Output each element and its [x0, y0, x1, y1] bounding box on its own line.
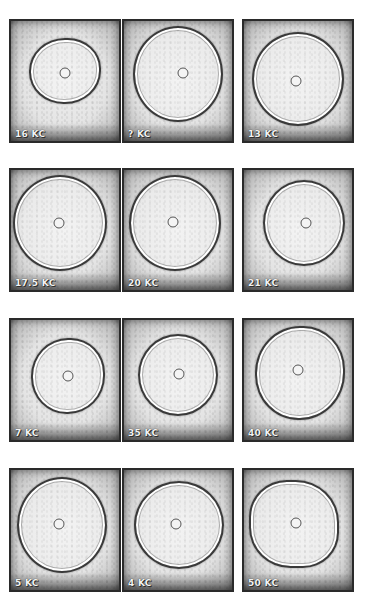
micrograph-panel: 17.5 KC: [9, 168, 121, 292]
micrograph-panel: 20 KC: [122, 168, 234, 292]
frequency-label: 35 KC: [128, 428, 158, 438]
center-hole: [293, 365, 304, 376]
micrograph-panel: 13 KC: [242, 19, 354, 143]
micrograph-panel: 5 KC: [9, 468, 121, 592]
micrograph-panel: 16 KC: [9, 19, 121, 143]
frequency-label: ? KC: [128, 129, 151, 139]
center-hole: [170, 519, 181, 530]
center-hole: [53, 519, 64, 530]
micrograph-panel: 40 KC: [242, 318, 354, 442]
frequency-label: 4 KC: [128, 578, 152, 588]
center-hole: [174, 369, 185, 380]
micrograph-panel: 50 KC: [242, 468, 354, 592]
frequency-label: 21 KC: [248, 278, 278, 288]
micrograph-panel: 21 KC: [242, 168, 354, 292]
frequency-label: 17.5 KC: [15, 278, 56, 288]
frequency-label: 5 KC: [15, 578, 39, 588]
micrograph-panel: ? KC: [122, 19, 234, 143]
center-hole: [53, 217, 64, 228]
center-hole: [290, 517, 301, 528]
frequency-label: 13 KC: [248, 129, 278, 139]
frequency-label: 50 KC: [248, 578, 278, 588]
frequency-label: 7 KC: [15, 428, 39, 438]
micrograph-panel: 35 KC: [122, 318, 234, 442]
center-hole: [167, 216, 178, 227]
micrograph-panel: 4 KC: [122, 468, 234, 592]
center-hole: [178, 67, 189, 78]
center-hole: [300, 217, 311, 228]
frequency-label: 16 KC: [15, 129, 45, 139]
center-hole: [60, 67, 71, 78]
frequency-label: 40 KC: [248, 428, 278, 438]
center-hole: [290, 76, 301, 87]
micrograph-figure: 16 KC? KC13 KC17.5 KC20 KC21 KC7 KC35 KC…: [0, 0, 365, 602]
frequency-label: 20 KC: [128, 278, 158, 288]
micrograph-panel: 7 KC: [9, 318, 121, 442]
center-hole: [63, 371, 74, 382]
